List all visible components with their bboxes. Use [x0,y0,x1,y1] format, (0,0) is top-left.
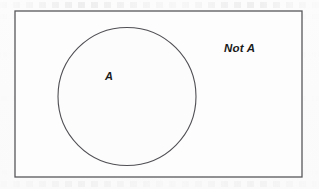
set-a-label: A [105,71,113,82]
venn-diagram-canvas [0,0,319,189]
venn-diagram-figure: A Not A [0,0,319,189]
set-a-circle [58,28,196,166]
complement-not-a-label: Not A [224,43,255,55]
